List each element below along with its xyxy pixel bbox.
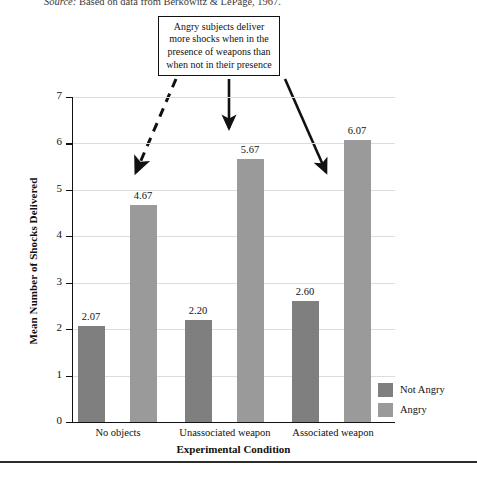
figure-container: Source: Based on data from Berkowitz & L… <box>0 0 477 482</box>
x-axis-title: Experimental Condition <box>72 443 395 455</box>
legend-swatch-not-angry-icon <box>378 383 393 397</box>
bar-value-no-objects-angry: 4.67 <box>123 190 163 201</box>
legend-swatch-angry-icon <box>378 403 393 417</box>
bar-value-no-objects-not-angry: 2.07 <box>71 311 111 322</box>
bar-associated-not-angry <box>292 301 319 422</box>
legend-label-not-angry: Not Angry <box>400 384 445 395</box>
figure-bottom-rule <box>0 461 477 463</box>
bar-no-objects-not-angry <box>78 326 105 422</box>
x-category-label-associated-weapon: Associated weapon <box>283 427 383 438</box>
bar-no-objects-angry <box>130 205 157 422</box>
plot-area: Mean Number of Shocks Delivered 7 6 5 4 … <box>0 0 477 482</box>
legend-item-not-angry: Not Angry <box>378 381 445 398</box>
bar-value-unassociated-angry: 5.67 <box>230 144 270 155</box>
bar-value-associated-angry: 6.07 <box>337 125 377 136</box>
bar-associated-angry <box>344 140 371 422</box>
x-category-label-unassociated-weapon: Unassociated weapon <box>166 427 284 438</box>
x-axis-line <box>72 422 395 423</box>
legend-item-angry: Angry <box>378 401 445 418</box>
y-tick-0 <box>66 422 73 423</box>
bar-value-unassociated-not-angry: 2.20 <box>178 305 218 316</box>
bar-unassociated-not-angry <box>185 320 212 422</box>
bar-unassociated-angry <box>237 159 264 422</box>
legend-label-angry: Angry <box>400 404 427 415</box>
x-category-label-no-objects: No objects <box>77 427 159 438</box>
chart-legend: Not Angry Angry <box>378 381 445 421</box>
bar-value-associated-not-angry: 2.60 <box>285 286 325 297</box>
